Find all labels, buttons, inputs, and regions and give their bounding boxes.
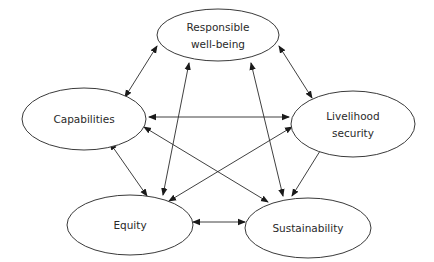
arrow-rwb-cap (125, 46, 157, 97)
node-ls: Livelihoodsecurity (291, 91, 415, 157)
node-ellipse (291, 91, 415, 157)
node-label: well-being (191, 38, 245, 50)
node-label: Responsible (187, 21, 250, 33)
node-label: Equity (113, 219, 146, 231)
relationship-diagram: Responsiblewell-beingCapabilitiesLivelih… (0, 0, 434, 262)
node-label: Capabilities (53, 113, 114, 125)
arrow-rwb-ls (279, 46, 312, 98)
arrow-cap-eq (110, 143, 147, 196)
node-eq: Equity (67, 195, 193, 255)
node-label: Sustainability (272, 222, 343, 234)
node-ellipse (157, 9, 279, 61)
node-label: Livelihood (326, 110, 379, 122)
arrow-ls-eq (169, 127, 292, 201)
nodes-group: Responsiblewell-beingCapabilitiesLivelih… (22, 9, 415, 258)
arrow-rwb-eq (163, 63, 189, 195)
node-rwb: Responsiblewell-being (157, 9, 279, 61)
node-sus: Sustainability (245, 198, 371, 258)
arrow-rwb-sus (251, 63, 283, 196)
node-cap: Capabilities (22, 88, 146, 150)
arrow-cap-sus (144, 127, 268, 202)
node-label: security (332, 127, 374, 139)
